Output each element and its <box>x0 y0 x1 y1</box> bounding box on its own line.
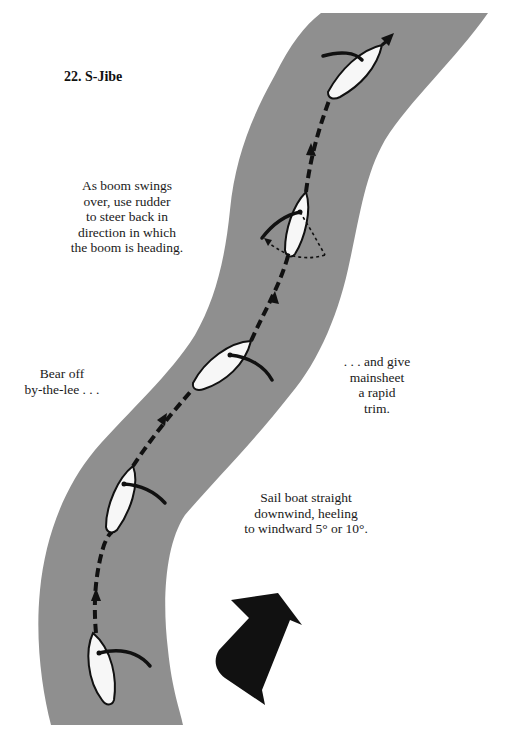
annotation-boom-swing: As boom swings over, use rudder to steer… <box>52 178 202 256</box>
annotation-give-mainsheet: . . . and give mainsheet a rapid trim. <box>322 354 432 416</box>
wind-arrow-icon <box>216 593 302 705</box>
annotation-bear-off: Bear off by-the-lee . . . <box>12 366 112 397</box>
annotation-sail-straight: Sail boat straight downwind, heeling to … <box>228 490 384 537</box>
diagram-title: 22. S-Jibe <box>64 69 122 85</box>
